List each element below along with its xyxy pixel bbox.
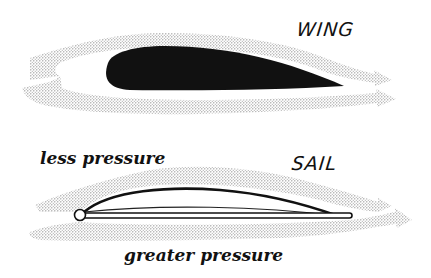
- boom: [82, 213, 352, 218]
- sail-airflow: [29, 167, 412, 241]
- greater-pressure-label: greater pressure: [124, 245, 283, 265]
- diagram-canvas: [0, 0, 431, 278]
- wing-vs-sail-diagram: WING SAIL less pressure greater pressure: [0, 0, 431, 278]
- wing-title: WING: [296, 18, 356, 40]
- mast: [75, 210, 86, 221]
- sail-title: SAIL: [291, 152, 339, 174]
- less-pressure-label: less pressure: [40, 148, 165, 168]
